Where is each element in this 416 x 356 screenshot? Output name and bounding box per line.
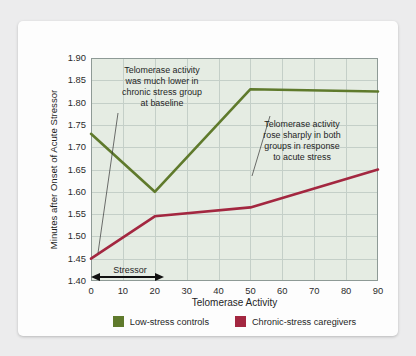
page-root: 1.401.451.501.551.601.651.701.751.801.85… — [0, 0, 416, 356]
leader-line-baseline — [98, 113, 118, 253]
legend-label: Low-stress controls — [130, 317, 209, 327]
legend-swatch-icon — [235, 316, 246, 327]
annotation-baseline: Telomerase activity was much lower in ch… — [106, 65, 218, 108]
legend-item[interactable]: Low-stress controls — [113, 316, 209, 327]
chart-legend: Low-stress controlsChronic-stress caregi… — [91, 316, 378, 327]
series-lines — [91, 89, 378, 258]
legend-item[interactable]: Chronic-stress caregivers — [235, 316, 356, 327]
legend-label: Chronic-stress caregivers — [252, 317, 356, 327]
chart-card: 1.401.451.501.551.601.651.701.751.801.85… — [18, 21, 398, 336]
annotation-acute-stress: Telomerase activity rose sharply in both… — [246, 119, 358, 162]
stressor-label: Stressor — [98, 265, 162, 275]
annotation-leader-lines — [98, 113, 270, 253]
series-line — [91, 170, 378, 259]
legend-swatch-icon — [113, 316, 124, 327]
